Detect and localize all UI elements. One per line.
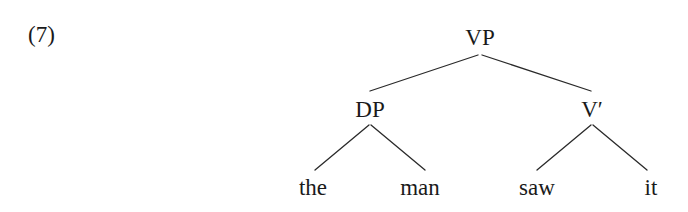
node-v-bar: V′ [581,97,603,122]
leaf-it: it [645,175,658,200]
edge-vbar-it [593,125,647,170]
edge-vbar-saw [537,125,591,170]
edge-vp-vbar [482,55,591,91]
leaf-the: the [299,175,327,200]
leaf-saw: saw [519,175,555,200]
edge-dp-man [371,125,425,170]
example-number: (7) [28,22,55,47]
node-dp: DP [355,97,384,122]
edge-vp-dp [370,55,478,91]
node-vp: VP [465,25,494,50]
syntax-tree: (7) VP DP V′ the man saw it [0,0,688,212]
leaf-man: man [400,175,440,200]
edge-dp-the [315,125,369,170]
